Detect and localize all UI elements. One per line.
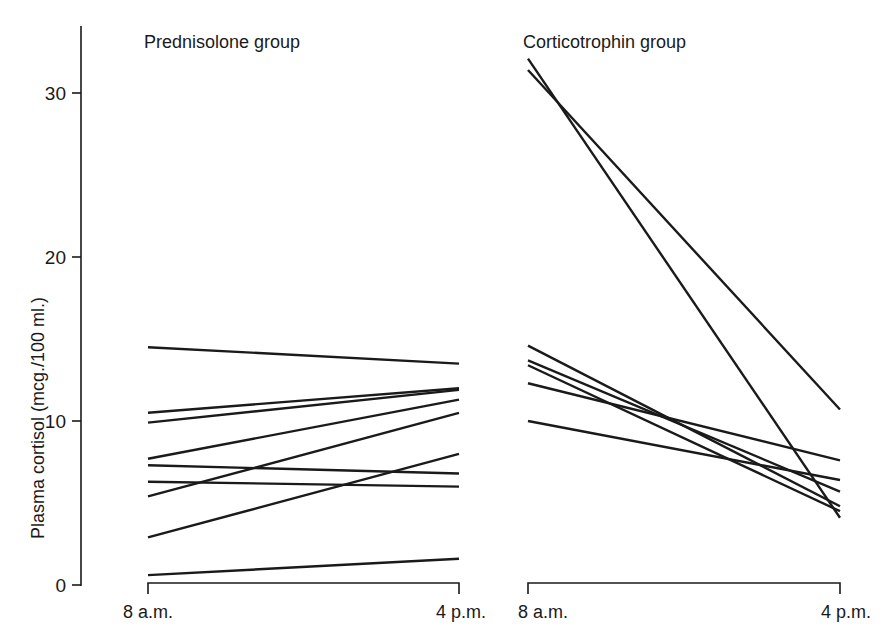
panel-title-prednisolone: Prednisolone group <box>144 32 300 52</box>
series-line <box>148 559 459 575</box>
corticotrophin-series-lines <box>528 59 840 518</box>
y-tick-label-20: 20 <box>45 247 66 268</box>
panel-title-corticotrophin: Corticotrophin group <box>523 32 686 52</box>
y-tick-label-10: 10 <box>45 411 66 432</box>
x-label-right-8am: 8 a.m. <box>518 602 568 622</box>
y-axis-label: Plasma cortisol (mcg./100 ml.) <box>28 297 48 539</box>
x-label-right-4pm: 4 p.m. <box>821 602 871 622</box>
x-axis-right: 8 a.m. 4 p.m. <box>518 583 871 622</box>
x-label-left-4pm: 4 p.m. <box>436 602 486 622</box>
prednisolone-series-lines <box>148 347 459 575</box>
x-axis-left: 8 a.m. 4 p.m. <box>123 583 486 622</box>
x-label-left-8am: 8 a.m. <box>123 602 173 622</box>
chart-canvas: 30 20 10 0 Plasma cortisol (mcg./100 ml.… <box>0 0 896 633</box>
y-axis: 30 20 10 0 Plasma cortisol (mcg./100 ml.… <box>28 26 81 596</box>
y-tick-label-30: 30 <box>45 83 66 104</box>
series-line <box>528 70 840 409</box>
series-line <box>528 383 840 460</box>
series-line <box>148 390 459 423</box>
y-tick-label-0: 0 <box>55 575 66 596</box>
series-line <box>148 347 459 363</box>
series-line <box>528 365 840 511</box>
